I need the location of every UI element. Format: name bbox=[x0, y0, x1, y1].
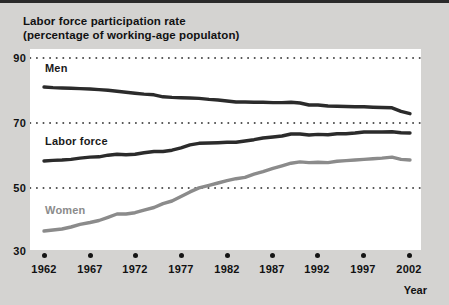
x-tick-dot-1997 bbox=[361, 253, 366, 258]
x-tick-dot-2002 bbox=[407, 253, 412, 258]
x-axis-title: Year bbox=[404, 284, 427, 296]
x-tick-label-1997: 1997 bbox=[343, 263, 383, 275]
y-tick-label-90: 90 bbox=[2, 52, 26, 64]
y-tick-label-50: 50 bbox=[2, 182, 26, 194]
x-tick-dot-1982 bbox=[225, 253, 230, 258]
plot-area: Men Labor force Women bbox=[30, 49, 421, 250]
x-tick-dot-1992 bbox=[315, 253, 320, 258]
x-tick-dot-1972 bbox=[133, 253, 138, 258]
x-tick-label-1982: 1982 bbox=[207, 263, 247, 275]
chart-title: Labor force participation rate (percenta… bbox=[23, 14, 363, 42]
x-tick-dot-1967 bbox=[88, 253, 93, 258]
x-tick-dot-1987 bbox=[270, 253, 275, 258]
x-tick-label-1967: 1967 bbox=[70, 263, 110, 275]
x-tick-label-1962: 1962 bbox=[24, 263, 64, 275]
x-tick-label-1992: 1992 bbox=[297, 263, 337, 275]
chart-svg bbox=[30, 49, 421, 250]
series-label-labor-force: Labor force bbox=[45, 135, 108, 147]
series-line-men bbox=[44, 87, 410, 114]
series-label-women: Women bbox=[45, 204, 86, 216]
x-tick-label-1987: 1987 bbox=[252, 263, 292, 275]
x-tick-label-1972: 1972 bbox=[115, 263, 155, 275]
y-tick-label-70: 70 bbox=[2, 117, 26, 129]
chart-title-line-2: (percentage of working-age populaton) bbox=[23, 28, 363, 42]
series-label-men: Men bbox=[45, 62, 68, 74]
x-tick-dot-1977 bbox=[179, 253, 184, 258]
chart-title-line-1: Labor force participation rate bbox=[23, 15, 186, 27]
gridlines bbox=[30, 58, 421, 188]
x-tick-label-1977: 1977 bbox=[161, 263, 201, 275]
chart-figure: Labor force participation rate (percenta… bbox=[0, 0, 449, 305]
top-rule-divider bbox=[0, 0, 449, 3]
y-tick-label-30: 30 bbox=[2, 245, 26, 257]
series-line-women bbox=[44, 157, 410, 231]
x-tick-dot-1962 bbox=[42, 253, 47, 258]
x-tick-label-2002: 2002 bbox=[389, 263, 429, 275]
